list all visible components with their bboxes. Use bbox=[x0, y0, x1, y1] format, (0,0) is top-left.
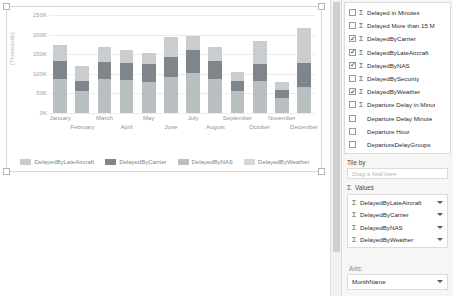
stacked-bar[interactable] bbox=[253, 41, 267, 113]
bar-segment[interactable] bbox=[75, 81, 89, 91]
bar-column[interactable] bbox=[204, 15, 226, 113]
values-well[interactable]: ΣDelayedByLateAircraftΣDelayedByCarrierΣ… bbox=[347, 194, 448, 248]
stacked-bar[interactable] bbox=[53, 45, 67, 113]
field-checkbox[interactable] bbox=[349, 49, 356, 56]
field-list-item[interactable]: ΣDelayedByLateAircraft bbox=[345, 46, 450, 59]
bar-column[interactable] bbox=[293, 15, 315, 113]
axis-field-item[interactable]: MonthName bbox=[348, 276, 447, 289]
bar-segment[interactable] bbox=[75, 66, 89, 81]
bar-column[interactable] bbox=[138, 15, 160, 113]
field-list-item[interactable]: Departure Hour bbox=[345, 125, 450, 138]
bar-segment[interactable] bbox=[208, 47, 222, 61]
bar-segment[interactable] bbox=[120, 63, 134, 80]
bar-column[interactable] bbox=[182, 15, 204, 113]
bar-column[interactable] bbox=[71, 15, 93, 113]
bar-column[interactable] bbox=[93, 15, 115, 113]
field-list-item[interactable]: ΣDelayed More than 15 M bbox=[345, 19, 450, 32]
scrollbar-thumb[interactable] bbox=[333, 2, 340, 252]
field-checkbox[interactable] bbox=[349, 88, 356, 95]
field-list-item[interactable]: DepartureDelayGroups bbox=[345, 138, 450, 151]
bar-segment[interactable] bbox=[231, 72, 245, 81]
field-checkbox[interactable] bbox=[349, 35, 356, 42]
field-checkbox[interactable] bbox=[349, 141, 356, 148]
field-checkbox[interactable] bbox=[349, 75, 356, 82]
bar-column[interactable] bbox=[116, 15, 138, 113]
field-list-item[interactable]: ΣDelayed in Minutes bbox=[345, 6, 450, 19]
field-list-item[interactable]: ΣDeparture Delay in Minut bbox=[345, 98, 450, 111]
bar-segment[interactable] bbox=[186, 36, 200, 50]
report-canvas[interactable]: (Thousands) 0K50K100K150K200K250K Januar… bbox=[0, 0, 330, 296]
bar-segment[interactable] bbox=[297, 28, 311, 62]
bar-segment[interactable] bbox=[142, 53, 156, 65]
chart-bars[interactable] bbox=[49, 15, 315, 113]
values-well-item[interactable]: ΣDelayedByNAS bbox=[348, 221, 447, 234]
resize-handle-bottom-right[interactable] bbox=[318, 168, 325, 175]
field-checkbox[interactable] bbox=[349, 22, 356, 29]
stacked-column-chart-visual[interactable]: (Thousands) 0K50K100K150K200K250K Januar… bbox=[6, 6, 322, 172]
bar-segment[interactable] bbox=[98, 79, 112, 113]
stacked-bar[interactable] bbox=[297, 28, 311, 113]
pane-scrollbar[interactable] bbox=[330, 0, 342, 296]
bar-segment[interactable] bbox=[53, 61, 67, 79]
bar-column[interactable] bbox=[249, 15, 271, 113]
bar-segment[interactable] bbox=[253, 81, 267, 113]
stacked-bar[interactable] bbox=[231, 72, 245, 113]
bar-column[interactable] bbox=[49, 15, 71, 113]
bar-segment[interactable] bbox=[120, 80, 134, 113]
field-list[interactable]: ΣDelayed in MinutesΣDelayed More than 15… bbox=[344, 2, 451, 154]
values-well-item[interactable]: ΣDelayedByCarrier bbox=[348, 209, 447, 222]
bar-segment[interactable] bbox=[231, 91, 245, 113]
stacked-bar[interactable] bbox=[208, 47, 222, 113]
bar-segment[interactable] bbox=[275, 98, 289, 113]
bar-segment[interactable] bbox=[253, 41, 267, 64]
bar-segment[interactable] bbox=[208, 79, 222, 113]
bar-column[interactable] bbox=[271, 15, 293, 113]
bar-column[interactable] bbox=[160, 15, 182, 113]
stacked-bar[interactable] bbox=[164, 37, 178, 113]
chart-legend[interactable]: DelayedByLateAircraftDelayedByCarrierDel… bbox=[7, 159, 323, 165]
values-well-item[interactable]: ΣDelayedByWeather bbox=[348, 234, 447, 247]
tile-by-dropzone[interactable]: Drag a field here bbox=[347, 168, 448, 179]
bar-segment[interactable] bbox=[75, 91, 89, 113]
bar-segment[interactable] bbox=[120, 50, 134, 63]
bar-segment[interactable] bbox=[53, 45, 67, 61]
bar-segment[interactable] bbox=[275, 82, 289, 91]
resize-handle-bottom-left[interactable] bbox=[3, 168, 10, 175]
field-checkbox[interactable] bbox=[349, 101, 356, 108]
field-list-item[interactable]: ΣDelayedBySecurity bbox=[345, 72, 450, 85]
field-list-item[interactable]: Departure Delay Minute bbox=[345, 112, 450, 125]
field-list-item[interactable]: ΣDelayedByNAS bbox=[345, 59, 450, 72]
chevron-down-icon[interactable] bbox=[437, 213, 443, 216]
field-checkbox[interactable] bbox=[349, 115, 356, 122]
bar-segment[interactable] bbox=[53, 79, 67, 113]
chevron-down-icon[interactable] bbox=[437, 226, 443, 229]
legend-item[interactable]: DelayedByCarrier bbox=[105, 159, 166, 165]
stacked-bar[interactable] bbox=[275, 82, 289, 113]
chevron-down-icon[interactable] bbox=[437, 280, 443, 283]
bar-column[interactable] bbox=[226, 15, 248, 113]
bar-segment[interactable] bbox=[142, 64, 156, 81]
bar-segment[interactable] bbox=[297, 63, 311, 87]
stacked-bar[interactable] bbox=[120, 50, 134, 113]
bar-segment[interactable] bbox=[98, 62, 112, 80]
chevron-down-icon[interactable] bbox=[437, 238, 443, 241]
bar-segment[interactable] bbox=[275, 90, 289, 98]
field-list-item[interactable]: ΣDelayedByWeather bbox=[345, 85, 450, 98]
bar-segment[interactable] bbox=[98, 47, 112, 62]
bar-segment[interactable] bbox=[164, 77, 178, 113]
stacked-bar[interactable] bbox=[142, 53, 156, 113]
bar-segment[interactable] bbox=[253, 64, 267, 81]
field-checkbox[interactable] bbox=[349, 9, 356, 16]
stacked-bar[interactable] bbox=[186, 36, 200, 113]
legend-item[interactable]: DelayedByLateAircraft bbox=[20, 159, 94, 165]
bar-segment[interactable] bbox=[208, 61, 222, 79]
bar-segment[interactable] bbox=[231, 81, 245, 91]
bar-segment[interactable] bbox=[186, 50, 200, 72]
bar-segment[interactable] bbox=[164, 37, 178, 57]
chevron-down-icon[interactable] bbox=[437, 201, 443, 204]
legend-item[interactable]: DelayedByWeather bbox=[244, 159, 310, 165]
stacked-bar[interactable] bbox=[98, 47, 112, 113]
bar-segment[interactable] bbox=[142, 82, 156, 113]
bar-segment[interactable] bbox=[186, 73, 200, 113]
field-checkbox[interactable] bbox=[349, 62, 356, 69]
